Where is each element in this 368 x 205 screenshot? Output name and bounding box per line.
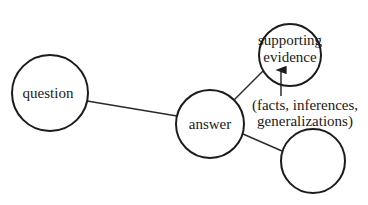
edge-question-answer (87, 101, 177, 116)
edge-answer-supporting-evidence (234, 71, 263, 100)
answer-label: answer (189, 116, 231, 132)
node-question: question (12, 55, 88, 131)
concept-diagram: question answer supporting evidence (fac… (0, 0, 368, 205)
question-label: question (23, 85, 74, 101)
supporting-evidence-label-line2: evidence (263, 49, 317, 65)
annotation-line1: (facts, inferences, (252, 97, 358, 114)
annotation-line2: generalizations) (257, 113, 353, 130)
node-answer: answer (176, 90, 244, 158)
node-empty (281, 129, 345, 193)
node-supporting-evidence: supporting evidence (258, 24, 323, 86)
supporting-evidence-label-line1: supporting (258, 32, 323, 48)
empty-circle (281, 129, 345, 193)
edge-answer-empty (243, 134, 282, 151)
